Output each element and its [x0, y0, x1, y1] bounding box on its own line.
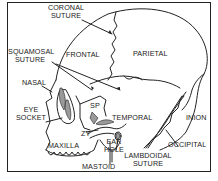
coronal-suture-line: [108, 12, 117, 80]
label-mastoid: MASTOID: [82, 163, 115, 171]
shade-nasal: [59, 88, 65, 110]
label-lambdoidal-suture: LAMBDOIDAL SUTURE: [124, 152, 172, 168]
leader-eye-socket: [46, 118, 62, 122]
label-coronal-suture: CORONAL SUTURE: [42, 4, 90, 20]
label-occipital: OCCIPITAL: [168, 141, 206, 149]
label-line: SUTURE: [8, 56, 52, 64]
label-line: SUTURE: [124, 160, 172, 168]
cranium-outline: [56, 9, 207, 150]
label-inion: INION: [186, 114, 206, 122]
label-squamosal-suture: SQUAMOSAL SUTURE: [8, 48, 52, 64]
label-eye-socket: EYE SOCKET: [14, 106, 48, 122]
label-zy: ZY: [81, 130, 90, 138]
shade-eye: [65, 100, 71, 120]
label-line: SUTURE: [42, 12, 90, 20]
label-nasal: NASAL: [22, 79, 46, 87]
label-sp: SP: [90, 102, 100, 110]
shade-sphenoid: [90, 112, 98, 124]
squamosal-suture-line: [90, 76, 180, 88]
label-temporal: TEMPORAL: [112, 114, 152, 122]
label-line: SOCKET: [14, 114, 48, 122]
label-ear-hole: EAR HOLE: [104, 138, 124, 154]
label-frontal: FRONTAL: [66, 51, 100, 59]
label-line: HOLE: [104, 146, 124, 154]
label-maxilla: MAXILLA: [48, 142, 79, 150]
label-parietal: PARIETAL: [133, 50, 167, 58]
